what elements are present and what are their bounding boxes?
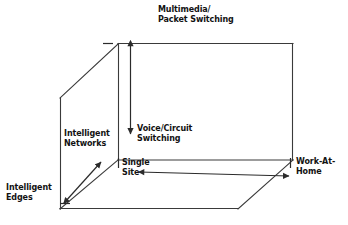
cube-edge-top-left-diagonal bbox=[60, 44, 118, 98]
label-work-at-home: Work-At- Home bbox=[296, 157, 346, 177]
depth-axis-arrow bbox=[64, 162, 101, 203]
label-single-site: Single Site bbox=[122, 158, 164, 178]
cube-edge-bottom-left-diagonal bbox=[60, 160, 118, 209]
label-multimedia-packet-switching: Multimedia/ Packet Switching bbox=[158, 5, 248, 25]
label-intelligent-networks: Intelligent Networks bbox=[64, 129, 120, 149]
label-intelligent-edges: Intelligent Edges bbox=[6, 183, 64, 203]
cube-edge-bottom-right-diagonal bbox=[238, 160, 293, 209]
diagram-canvas: Multimedia/ Packet Switching Voice/Circu… bbox=[0, 0, 348, 225]
label-voice-circuit-switching: Voice/Circuit Switching bbox=[137, 124, 217, 144]
